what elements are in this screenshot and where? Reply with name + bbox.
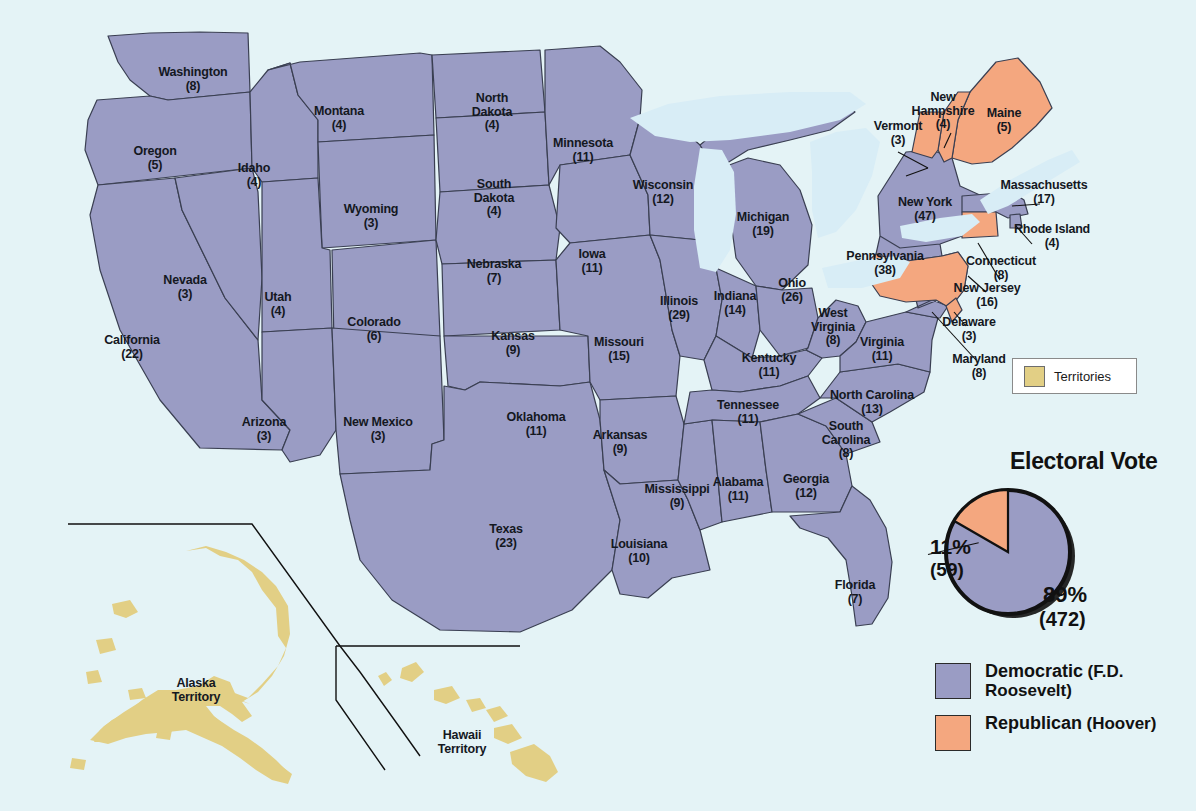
state-shape-kansas [442, 260, 560, 336]
state-shape-newmexico [332, 328, 444, 474]
democratic-percentage: 89% [1043, 582, 1087, 608]
pie-chart: 11% (59) 89% (472) [940, 482, 1080, 622]
electoral-map: AlaskaTerritoryHawaiiTerritory Washingto… [0, 0, 1196, 811]
territories-legend-box: Territories [1012, 358, 1137, 394]
state-shape-oklahoma [444, 336, 590, 390]
territory-color-swatch [1024, 366, 1045, 387]
territories-legend-label: Territories [1054, 369, 1111, 384]
democratic-vote-count: (472) [1039, 608, 1086, 631]
republican-vote-count: (59) [930, 559, 964, 581]
state-shape-southdakota [436, 112, 549, 192]
democratic-party-label: Democratic [985, 661, 1083, 681]
state-shape-nebraska [436, 185, 560, 264]
state-shape-colorado [332, 240, 440, 342]
legend-row-democratic: Democratic (F.D. Roosevelt) [935, 661, 1185, 700]
republican-candidate-label: (Hoover) [1086, 714, 1156, 733]
party-legend: Democratic (F.D. Roosevelt) Republican (… [935, 661, 1185, 764]
republican-color-swatch [935, 715, 971, 751]
electoral-vote-chart: Electoral Vote 11% (59) 89% (472) [900, 440, 1196, 630]
republican-percentage: 11% [930, 535, 971, 559]
legend-row-republican: Republican (Hoover) [935, 713, 1185, 751]
state-shape-wyoming [318, 135, 436, 248]
democratic-color-swatch [935, 663, 971, 699]
state-shape-arkansas [600, 396, 684, 484]
republican-party-label: Republican [985, 713, 1082, 733]
state-shape-northdakota [432, 50, 545, 118]
electoral-vote-title: Electoral Vote [1010, 448, 1157, 475]
state-shape-rhodeisland [1010, 214, 1022, 228]
